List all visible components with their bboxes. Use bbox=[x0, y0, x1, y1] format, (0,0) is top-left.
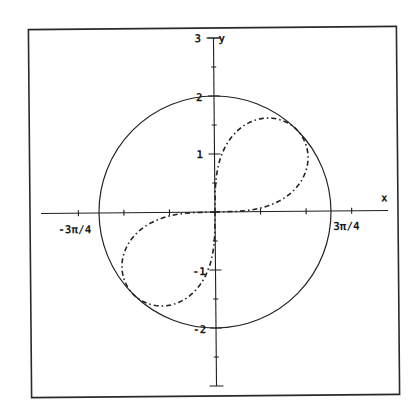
y-tick-label-2: 2 bbox=[196, 91, 203, 104]
curves bbox=[98, 95, 332, 329]
y-axis-label: y bbox=[218, 32, 225, 45]
x-tick-label-neg-3pi4: -3π/4 bbox=[58, 223, 92, 236]
y-tick-label-neg2: -2 bbox=[193, 323, 206, 336]
polar-plot: y x 3 2 1 -1 -2 -3π/4 3π/4 bbox=[0, 0, 419, 414]
lemniscate-loop-q1-curve bbox=[214, 118, 308, 212]
y-tick-label-neg1: -1 bbox=[192, 265, 206, 278]
x-tick-label-3pi4: 3π/4 bbox=[333, 220, 360, 233]
y-tick-label-1: 1 bbox=[196, 148, 203, 161]
y-tick-label-3: 3 bbox=[194, 32, 201, 45]
lemniscate-loop-q3-curve bbox=[122, 212, 216, 306]
x-axis-label: x bbox=[381, 191, 388, 204]
